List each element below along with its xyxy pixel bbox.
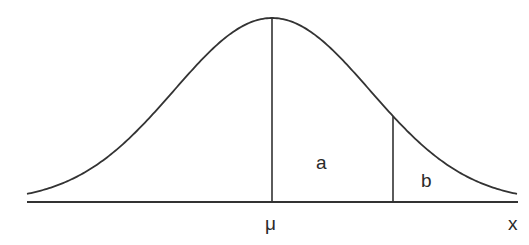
normal-curve-diagram [0,0,529,245]
x-axis-label: x [508,214,518,233]
region-b-label: b [421,171,432,190]
region-a-label: a [316,153,327,172]
mean-label: μ [265,214,276,233]
